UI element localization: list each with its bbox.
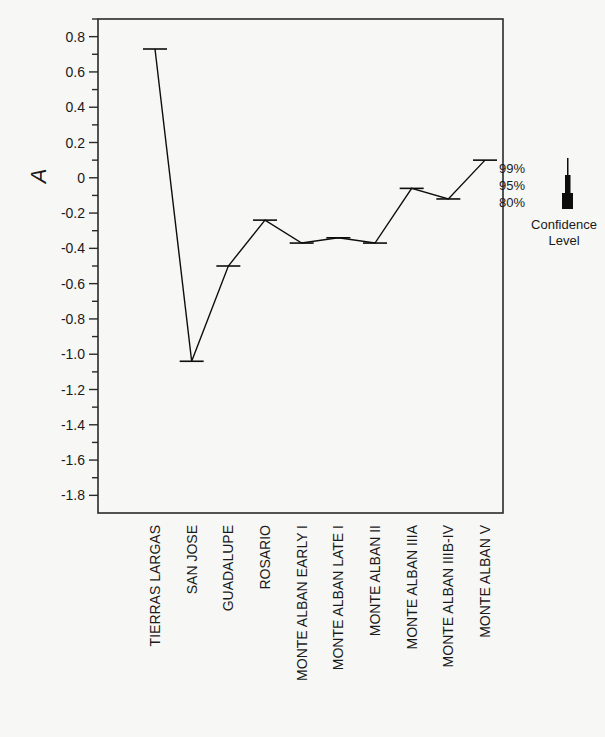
y-tick-label: -0.4 — [61, 240, 85, 256]
mean-line — [155, 49, 485, 361]
x-category-label: TIERRAS LARGAS — [147, 525, 163, 646]
y-tick-label: -1.6 — [61, 452, 85, 468]
confidence-interval-chart: 0.80.60.40.20-0.2-0.4-0.6-0.8-1.0-1.2-1.… — [0, 0, 605, 737]
y-tick-label: 0.6 — [66, 64, 86, 80]
legend-title-line2: Level — [548, 233, 579, 248]
x-category-label: MONTE ALBAN IIIB-IV — [440, 524, 456, 667]
x-category-label: GUADALUPE — [220, 525, 236, 611]
x-category-label: MONTE ALBAN LATE I — [330, 525, 346, 670]
y-tick-label: -0.2 — [61, 205, 85, 221]
x-axis-labels: TIERRAS LARGASSAN JOSEGUADALUPEROSARIOMO… — [147, 524, 493, 681]
y-tick-label: -1.4 — [61, 417, 85, 433]
y-tick-label: -1.8 — [61, 487, 85, 503]
plot-frame — [98, 19, 503, 513]
y-tick-label: 0.4 — [66, 99, 86, 115]
x-category-label: MONTE ALBAN EARLY I — [294, 525, 310, 681]
y-tick-label: -1.2 — [61, 382, 85, 398]
x-category-label: ROSARIO — [257, 525, 273, 590]
legend: 99% 95% 80% Confidence Level — [499, 158, 597, 248]
y-tick-label: -0.8 — [61, 311, 85, 327]
x-category-label: MONTE ALBAN IIIA — [404, 524, 420, 649]
y-tick-label: -0.6 — [61, 276, 85, 292]
legend-title-line1: Confidence — [531, 217, 597, 232]
x-category-label: MONTE ALBAN II — [367, 525, 383, 636]
legend-glyph-80 — [562, 193, 573, 209]
y-tick-label: 0.2 — [66, 135, 86, 151]
x-category-label: SAN JOSE — [184, 525, 200, 594]
mean-connector-line — [155, 49, 485, 361]
legend-label-99: 99% — [499, 161, 525, 176]
legend-label-80: 80% — [499, 195, 525, 210]
x-category-label: MONTE ALBAN V — [477, 524, 493, 637]
y-tick-label: 0 — [77, 170, 85, 186]
y-axis: 0.80.60.40.20-0.2-0.4-0.6-0.8-1.0-1.2-1.… — [61, 19, 98, 503]
legend-label-95: 95% — [499, 178, 525, 193]
y-tick-label: -1.0 — [61, 346, 85, 362]
y-tick-label: 0.8 — [66, 29, 86, 45]
confidence-bars — [143, 49, 497, 361]
y-axis-label: A — [26, 168, 51, 185]
